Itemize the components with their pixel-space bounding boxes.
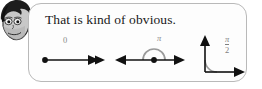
fraction-numerator: π <box>225 35 229 44</box>
angle-pi-diagram-icon <box>113 34 187 78</box>
angle-pi-label: π <box>157 34 161 43</box>
fraction-denominator: 2 <box>225 46 229 55</box>
angle-pi-figure: π <box>113 34 187 78</box>
angle-pi-over-two-label: π 2 <box>225 35 229 55</box>
angle-zero-figure: 0 <box>37 34 109 78</box>
angle-zero-label: 0 <box>63 36 67 45</box>
angle-pi-over-two-figure: π 2 <box>191 34 247 82</box>
angle-zero-diagram-icon <box>37 34 109 78</box>
speech-bubble: That is kind of obvious. 0 π <box>28 3 247 82</box>
angle-pi-over-two-diagram-icon <box>191 34 247 82</box>
comic-panel: That is kind of obvious. 0 π <box>0 0 262 89</box>
speech-bubble-text: That is kind of obvious. <box>45 12 176 28</box>
